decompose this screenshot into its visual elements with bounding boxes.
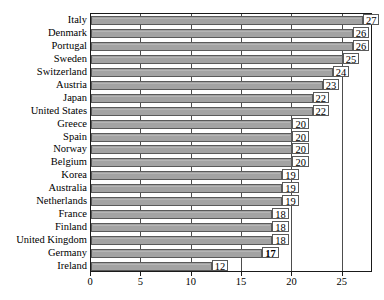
value-label-belgium: 20 bbox=[292, 156, 309, 167]
bar-portugal bbox=[91, 42, 353, 51]
value-label-spain: 20 bbox=[292, 131, 309, 142]
bar-row bbox=[91, 29, 373, 38]
category-label-netherlands: Netherlands bbox=[36, 195, 87, 206]
xtick-label-15: 15 bbox=[236, 276, 247, 287]
bar-row bbox=[91, 145, 373, 154]
xtick-label-5: 5 bbox=[138, 276, 143, 287]
xtick-label-0: 0 bbox=[87, 276, 92, 287]
category-label-united-states: United States bbox=[31, 105, 87, 116]
value-label-finland: 18 bbox=[272, 221, 289, 232]
value-label-sweden: 25 bbox=[343, 53, 360, 64]
bar-highlight bbox=[93, 160, 290, 161]
bar-highlight bbox=[93, 83, 321, 84]
value-label-australia: 19 bbox=[282, 182, 299, 193]
bar-norway bbox=[91, 145, 292, 154]
bar-row bbox=[91, 16, 373, 25]
bar-row bbox=[91, 171, 373, 180]
bar-row bbox=[91, 55, 373, 64]
bar-row bbox=[91, 133, 373, 142]
value-label-germany: 17 bbox=[262, 247, 279, 258]
bar-highlight bbox=[93, 70, 331, 71]
bar-ireland bbox=[91, 262, 212, 271]
bar-greece bbox=[91, 120, 292, 129]
category-label-switzerland: Switzerland bbox=[37, 66, 87, 77]
bar-row bbox=[91, 197, 373, 206]
bar-australia bbox=[91, 184, 282, 193]
category-label-finland: Finland bbox=[55, 221, 87, 232]
bar-italy bbox=[91, 16, 363, 25]
bar-united-states bbox=[91, 107, 313, 116]
bar-row bbox=[91, 68, 373, 77]
bar-highlight bbox=[93, 212, 270, 213]
category-label-japan: Japan bbox=[63, 92, 87, 103]
value-label-portugal: 26 bbox=[353, 40, 370, 51]
bar-sweden bbox=[91, 55, 343, 64]
bar-highlight bbox=[93, 186, 280, 187]
bar-row bbox=[91, 94, 373, 103]
xtick-label-20: 20 bbox=[286, 276, 297, 287]
bar-highlight bbox=[93, 251, 260, 252]
gridline-5 bbox=[140, 14, 141, 271]
bar-highlight bbox=[93, 135, 290, 136]
category-label-germany: Germany bbox=[48, 247, 87, 258]
bar-highlight bbox=[93, 264, 210, 265]
bar-spain bbox=[91, 133, 292, 142]
bar-germany bbox=[91, 249, 262, 258]
bar-highlight bbox=[93, 225, 270, 226]
category-label-australia: Australia bbox=[49, 182, 88, 193]
value-label-united-kingdom: 18 bbox=[272, 234, 289, 245]
category-label-italy: Italy bbox=[68, 14, 87, 25]
category-label-spain: Spain bbox=[63, 131, 87, 142]
category-label-portugal: Portugal bbox=[51, 40, 87, 51]
bar-highlight bbox=[93, 122, 290, 123]
bar-row bbox=[91, 42, 373, 51]
value-label-ireland: 12 bbox=[212, 260, 229, 271]
category-label-norway: Norway bbox=[53, 143, 87, 154]
bar-chart: 0510152025 27Italy26Denmark26Portugal25S… bbox=[0, 0, 384, 300]
value-label-denmark: 26 bbox=[353, 27, 370, 38]
bar-highlight bbox=[93, 238, 270, 239]
gridline-10 bbox=[191, 14, 192, 271]
bar-row bbox=[91, 249, 373, 258]
bar-korea bbox=[91, 171, 282, 180]
category-label-greece: Greece bbox=[57, 118, 87, 129]
bar-highlight bbox=[93, 57, 341, 58]
bar-row bbox=[91, 210, 373, 219]
value-label-japan: 22 bbox=[313, 92, 330, 103]
bar-belgium bbox=[91, 158, 292, 167]
category-label-austria: Austria bbox=[56, 79, 87, 90]
bar-highlight bbox=[93, 199, 280, 200]
bar-austria bbox=[91, 81, 323, 90]
category-label-korea: Korea bbox=[61, 169, 87, 180]
value-label-italy: 27 bbox=[363, 14, 380, 25]
bar-row bbox=[91, 184, 373, 193]
value-label-norway: 20 bbox=[292, 143, 309, 154]
bar-highlight bbox=[93, 31, 351, 32]
value-label-greece: 20 bbox=[292, 118, 309, 129]
category-label-france: France bbox=[58, 208, 87, 219]
category-label-denmark: Denmark bbox=[48, 27, 87, 38]
bar-denmark bbox=[91, 29, 353, 38]
bar-united-kingdom bbox=[91, 236, 272, 245]
value-label-austria: 23 bbox=[323, 79, 340, 90]
xtick-label-10: 10 bbox=[185, 276, 196, 287]
value-label-switzerland: 24 bbox=[333, 66, 350, 77]
bar-japan bbox=[91, 94, 313, 103]
xtick-label-25: 25 bbox=[337, 276, 348, 287]
bar-highlight bbox=[93, 96, 311, 97]
category-label-belgium: Belgium bbox=[51, 156, 87, 167]
gridline-15 bbox=[241, 14, 242, 271]
bar-france bbox=[91, 210, 272, 219]
category-label-united-kingdom: United Kingdom bbox=[16, 234, 87, 245]
bar-finland bbox=[91, 223, 272, 232]
value-label-france: 18 bbox=[272, 208, 289, 219]
value-label-korea: 19 bbox=[282, 169, 299, 180]
bar-netherlands bbox=[91, 197, 282, 206]
bar-highlight bbox=[93, 44, 351, 45]
bar-switzerland bbox=[91, 68, 333, 77]
bar-highlight bbox=[93, 109, 311, 110]
value-label-netherlands: 19 bbox=[282, 195, 299, 206]
bar-highlight bbox=[93, 173, 280, 174]
category-label-ireland: Ireland bbox=[57, 260, 87, 271]
value-label-united-states: 22 bbox=[313, 105, 330, 116]
